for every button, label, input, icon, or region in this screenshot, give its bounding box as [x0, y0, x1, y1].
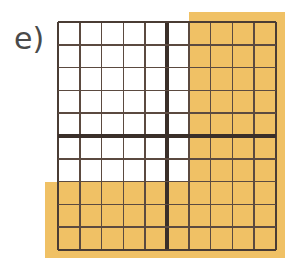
grid-cell [254, 136, 276, 159]
grid-cell [254, 22, 276, 45]
grid-cell [211, 113, 233, 136]
grid-cell [232, 159, 254, 182]
grid-horizontal-line [58, 44, 276, 46]
grid-cell [232, 182, 254, 205]
grid-cell [189, 22, 211, 45]
grid-cell [232, 113, 254, 136]
grid-horizontal-line [58, 90, 276, 92]
grid-cell [254, 204, 276, 227]
grid-horizontal-line [58, 21, 276, 23]
grid-cell [254, 68, 276, 91]
grid-cell [211, 204, 233, 227]
grid-cell [145, 227, 167, 250]
grid-cell [232, 68, 254, 91]
grid-cell [232, 45, 254, 68]
figure-label: e) [14, 24, 44, 54]
grid-cell [189, 204, 211, 227]
grid-cell [211, 136, 233, 159]
grid-cell [189, 227, 211, 250]
grid-cell [211, 182, 233, 205]
area-grid [58, 22, 276, 250]
grid-cell [232, 136, 254, 159]
grid-cell [123, 204, 145, 227]
grid-bold-horizontal-line [58, 134, 276, 137]
grid-cell [211, 159, 233, 182]
grid-cell [80, 204, 102, 227]
grid-cell [232, 22, 254, 45]
grid-horizontal-line [58, 181, 276, 183]
grid-cell [145, 204, 167, 227]
grid-cell [189, 182, 211, 205]
grid-cell [58, 182, 80, 205]
grid-cell [80, 182, 102, 205]
grid-horizontal-line [58, 204, 276, 206]
grid-horizontal-line [58, 158, 276, 160]
grid-cell [211, 22, 233, 45]
grid-cell [189, 68, 211, 91]
grid-cell [167, 227, 189, 250]
grid-cell [123, 182, 145, 205]
grid-cell [211, 90, 233, 113]
grid-cell [254, 159, 276, 182]
figure-canvas: e) [0, 0, 298, 262]
grid-horizontal-line [58, 67, 276, 69]
grid-cell [102, 227, 124, 250]
grid-cell [189, 159, 211, 182]
grid-cell [232, 204, 254, 227]
grid-cell [145, 182, 167, 205]
grid-cell [58, 227, 80, 250]
grid-cell [189, 45, 211, 68]
grid-cell [189, 113, 211, 136]
grid-cell [167, 182, 189, 205]
grid-cell [211, 227, 233, 250]
grid-horizontal-line [58, 112, 276, 114]
grid-cell [167, 204, 189, 227]
grid-cell [232, 227, 254, 250]
grid-cell [254, 182, 276, 205]
grid-horizontal-line [58, 226, 276, 228]
grid-horizontal-line [58, 249, 276, 251]
grid-cell [189, 90, 211, 113]
grid-cell [123, 227, 145, 250]
grid-cell [102, 204, 124, 227]
grid-cell [254, 227, 276, 250]
grid-cell [58, 204, 80, 227]
grid-cell [232, 90, 254, 113]
grid-cell [189, 136, 211, 159]
grid-cell [211, 68, 233, 91]
grid-cell [80, 227, 102, 250]
grid-cell [254, 45, 276, 68]
grid-cell [254, 113, 276, 136]
grid-cell [254, 90, 276, 113]
grid-cell [211, 45, 233, 68]
grid-cell [102, 182, 124, 205]
